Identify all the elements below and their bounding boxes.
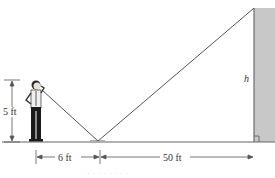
ray-eye-to-mirror <box>42 90 98 141</box>
building <box>254 8 275 142</box>
person-height-label: 5 ft <box>3 106 17 117</box>
mirror-similar-triangles-diagram: 5 ft 6 ft 50 ft h · · · · · · · · · <box>0 0 275 178</box>
figure-caption: · · · · · · · · · <box>82 171 129 177</box>
person-figure <box>26 81 44 142</box>
building-height-label: h <box>244 73 249 84</box>
ray-mirror-to-top <box>98 8 254 141</box>
distance-person-mirror-label: 6 ft <box>58 152 72 163</box>
distance-mirror-building-label: 50 ft <box>163 152 182 163</box>
